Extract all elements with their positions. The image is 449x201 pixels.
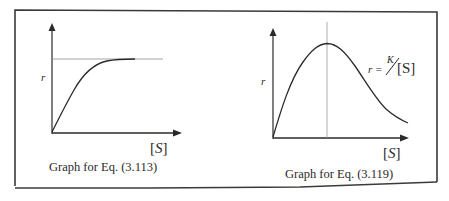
equation-lhs: r = [368,63,382,75]
left-graph-caption: Graph for Eq. (3.113) [49,160,157,175]
left-graph [49,23,183,137]
right-graph [270,22,410,142]
right-x-axis-label: [S] [383,145,401,162]
left-saturation-curve [52,59,135,132]
left-x-axis-arrow-icon [173,130,182,137]
right-y-axis-label: r [261,75,265,87]
equation-numerator: K [387,54,394,65]
right-y-axis-arrow-icon [270,28,277,36]
bracket-close: ] [396,145,401,161]
variable-s: S [155,140,163,156]
figure-panel: r [S] Graph for Eq. (3.113) r [S] Graph … [0,0,449,201]
right-graph-caption: Graph for Eq. (3.119) [285,167,393,182]
variable-s: S [388,145,396,161]
left-x-axis-label: [S] [150,140,168,157]
equation-denominator: [S] [397,60,415,77]
bracket-close: ] [163,140,168,156]
right-x-axis-arrow-icon [400,135,409,142]
left-y-axis-arrow-icon [49,23,56,31]
left-y-axis-label: r [41,71,45,83]
